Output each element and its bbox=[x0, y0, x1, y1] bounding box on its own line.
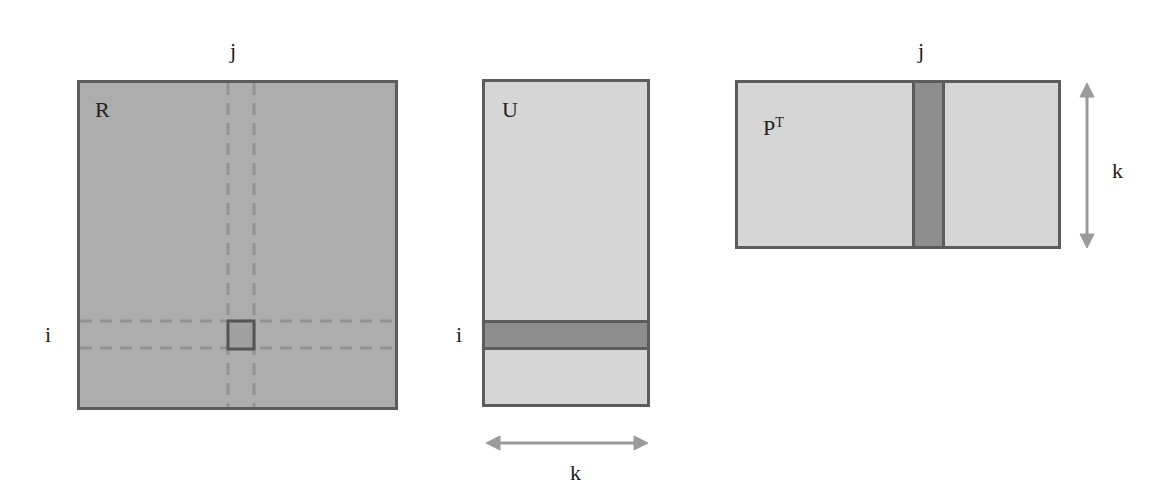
arrow-k-horizontal-icon bbox=[486, 436, 648, 450]
matrix-pt-label-sup: T bbox=[775, 115, 784, 130]
dashed-guides bbox=[80, 83, 395, 407]
matrix-pt-col-index: j bbox=[918, 40, 924, 62]
matrix-u-row-index: i bbox=[456, 324, 462, 346]
matrix-r-col-index: j bbox=[230, 40, 236, 62]
matrix-r-cell-ij bbox=[228, 321, 254, 349]
matrix-pt-label: PT bbox=[763, 112, 784, 139]
matrix-u-dim-label: k bbox=[570, 462, 581, 484]
matrix-r-row-index: i bbox=[45, 324, 51, 346]
matrix-pt-dim-label: k bbox=[1112, 160, 1123, 182]
arrow-k-vertical-icon bbox=[1080, 83, 1094, 248]
matrix-r-label: R bbox=[95, 99, 110, 121]
diagram-overlay bbox=[0, 0, 1165, 502]
matrix-u-label: U bbox=[502, 99, 518, 121]
matrix-pt-label-base: P bbox=[763, 115, 775, 140]
